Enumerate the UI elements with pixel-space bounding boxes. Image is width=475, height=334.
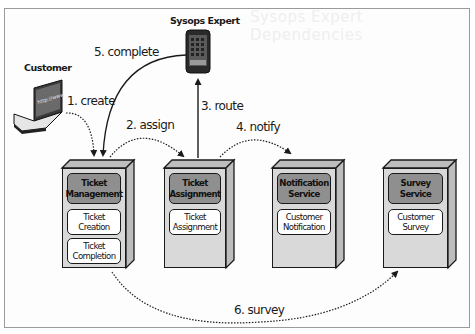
flow-arrow-assign [110, 138, 183, 157]
flow-label-create: 1. create [67, 94, 115, 108]
service-survey: SurveyService CustomerSurvey [383, 160, 456, 268]
flow-arrow-notify [220, 140, 290, 157]
flow-arrow-complete [103, 55, 186, 155]
component-ticket-creation: TicketCreation [67, 209, 121, 235]
flow-label-survey: 6. survey [234, 303, 284, 317]
service-ticket-assignment: TicketAssignment TicketAssignment [164, 160, 234, 268]
sysops-expert-label: Sysops Expert [170, 15, 240, 26]
flow-label-complete: 5. complete [94, 45, 159, 59]
flow-label-notify: 4. notify [236, 120, 280, 134]
laptop-icon: http://www [14, 80, 65, 134]
service-title-notification: NotificationService [277, 173, 331, 204]
component-ticket-completion: TicketCompletion [67, 238, 121, 264]
customer-label: Customer [24, 62, 72, 73]
component-ticket-assignment: TicketAssignment [169, 209, 221, 235]
service-ticket-management: TicketManagement TicketCreation TicketCo… [62, 160, 134, 268]
flow-label-route: 3. route [201, 99, 243, 113]
flow-label-assign: 2. assign [126, 118, 174, 132]
component-customer-notification: CustomerNotification [277, 209, 331, 235]
flow-arrow-create [66, 113, 94, 155]
service-title-survey: SurveyService [388, 173, 443, 204]
service-notification: NotificationService CustomerNotification [272, 160, 344, 268]
component-customer-survey: CustomerSurvey [388, 209, 443, 235]
service-title-ticket-management: TicketManagement [67, 173, 121, 204]
tablet-icon [186, 30, 210, 73]
service-title-ticket-assignment: TicketAssignment [169, 173, 221, 204]
